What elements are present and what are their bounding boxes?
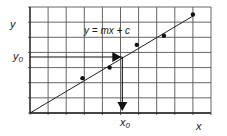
data-point (80, 76, 84, 80)
x-axis-label: x (195, 120, 202, 132)
y0-sub: 0 (19, 55, 24, 64)
data-point (162, 34, 166, 38)
x0-label: x0 (119, 116, 131, 130)
y0-label: y0 (12, 50, 24, 64)
data-point (191, 12, 195, 16)
equation-label: y = mx + c (83, 25, 130, 36)
y-axis-label: y (9, 18, 17, 30)
arrowhead-down-icon (117, 102, 127, 111)
x0-sub: 0 (126, 121, 131, 130)
data-point (135, 43, 139, 47)
readoff-arrows (30, 52, 127, 111)
line-fit-diagram: y x y = mx + c y0 x0 (0, 0, 227, 136)
arrowhead-right-icon (112, 52, 121, 62)
data-point (107, 65, 111, 69)
grid (28, 7, 211, 115)
